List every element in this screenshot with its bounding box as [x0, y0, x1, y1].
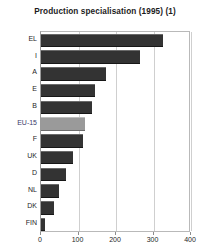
bar-row — [41, 168, 189, 181]
y-tick-label-f: F — [1, 135, 37, 142]
bar-f — [41, 134, 83, 147]
y-tick-label-uk: UK — [1, 152, 37, 159]
bar-nl — [41, 184, 59, 197]
chart-container: Production specialisation (1995) (1) ELI… — [0, 0, 210, 251]
bar-dk — [41, 201, 54, 214]
bar-row — [41, 201, 189, 214]
x-tick-label-0: 0 — [25, 236, 55, 243]
bar-row — [41, 117, 189, 130]
bar-a — [41, 67, 106, 80]
x-tick-label-300: 300 — [138, 236, 168, 243]
bar-eu-15 — [41, 117, 85, 130]
x-tick-label-200: 200 — [100, 236, 130, 243]
bar-uk — [41, 151, 73, 164]
bar-row — [41, 34, 189, 47]
x-tick-label-100: 100 — [63, 236, 93, 243]
y-tick-label-el: EL — [1, 35, 37, 42]
bar-e — [41, 84, 95, 97]
y-tick-label-eu-15: EU-15 — [1, 119, 37, 126]
y-tick-label-fin: FIN — [1, 219, 37, 226]
x-tick-label-400: 400 — [175, 236, 205, 243]
bar-i — [41, 50, 140, 63]
bar-row — [41, 151, 189, 164]
bar-row — [41, 84, 189, 97]
x-tick-mark — [40, 232, 41, 235]
plot-area — [40, 31, 190, 232]
y-tick-label-nl: NL — [1, 186, 37, 193]
x-tick-mark — [78, 232, 79, 235]
bar-row — [41, 67, 189, 80]
y-tick-label-a: A — [1, 68, 37, 75]
bar-row — [41, 50, 189, 63]
gridline — [191, 32, 192, 231]
chart-title: Production specialisation (1995) (1) — [0, 7, 210, 16]
y-tick-label-b: B — [1, 102, 37, 109]
y-tick-label-d: D — [1, 169, 37, 176]
x-tick-mark — [115, 232, 116, 235]
y-tick-label-dk: DK — [1, 202, 37, 209]
y-tick-label-i: I — [1, 52, 37, 59]
x-tick-mark — [190, 232, 191, 235]
bar-d — [41, 168, 66, 181]
bar-row — [41, 101, 189, 114]
bar-el — [41, 34, 163, 47]
x-tick-mark — [153, 232, 154, 235]
bar-b — [41, 101, 92, 114]
bar-row — [41, 218, 189, 231]
bars-layer — [41, 32, 189, 231]
bar-fin — [41, 218, 45, 231]
bar-row — [41, 134, 189, 147]
y-tick-label-e: E — [1, 85, 37, 92]
bar-row — [41, 184, 189, 197]
